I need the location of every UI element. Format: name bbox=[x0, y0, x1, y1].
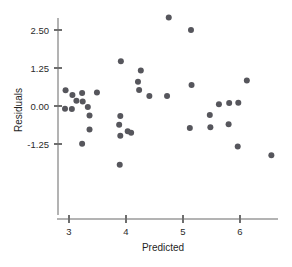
data-point bbox=[135, 79, 141, 85]
y-tick-label: -1.25 bbox=[27, 139, 49, 150]
data-point bbox=[73, 98, 79, 104]
plot-canvas: 34562.501.250.00-1.25 Predicted Residual… bbox=[0, 0, 292, 267]
data-point bbox=[94, 90, 100, 96]
data-point bbox=[164, 93, 170, 99]
data-point bbox=[235, 143, 241, 149]
data-point bbox=[85, 104, 91, 110]
data-point bbox=[136, 87, 142, 93]
scatter-plot-figure: 34562.501.250.00-1.25 Predicted Residual… bbox=[0, 0, 292, 267]
data-point bbox=[69, 106, 75, 112]
data-point bbox=[138, 67, 144, 73]
x-tick-label: 4 bbox=[123, 226, 128, 237]
data-point bbox=[87, 112, 93, 118]
data-point bbox=[187, 125, 193, 131]
x-tick-label: 6 bbox=[237, 226, 242, 237]
tick-labels-layer: 34562.501.250.00-1.25 bbox=[27, 25, 242, 238]
y-tick-label: 0.00 bbox=[31, 101, 50, 112]
data-point bbox=[116, 122, 122, 128]
data-point bbox=[63, 87, 69, 93]
data-point bbox=[216, 101, 222, 107]
data-point bbox=[128, 130, 134, 136]
data-points-layer bbox=[62, 15, 274, 168]
data-point bbox=[235, 100, 241, 106]
y-tick-label: 2.50 bbox=[31, 25, 50, 36]
x-axis-title: Predicted bbox=[142, 242, 184, 253]
y-axis-title: Residuals bbox=[13, 88, 24, 132]
data-point bbox=[166, 15, 172, 21]
axes-layer bbox=[57, 18, 278, 219]
x-tick-label: 5 bbox=[180, 226, 185, 237]
data-point bbox=[79, 141, 85, 147]
data-point bbox=[117, 113, 123, 119]
data-point bbox=[62, 106, 68, 112]
data-point bbox=[189, 82, 195, 88]
data-point bbox=[146, 93, 152, 99]
data-point bbox=[244, 77, 250, 83]
data-point bbox=[226, 100, 232, 106]
data-point bbox=[117, 162, 123, 168]
data-point bbox=[69, 92, 75, 98]
data-point bbox=[207, 112, 213, 118]
data-point bbox=[188, 27, 194, 33]
data-point bbox=[80, 98, 86, 104]
x-tick-label: 3 bbox=[66, 226, 71, 237]
y-tick-label: 1.25 bbox=[31, 63, 50, 74]
data-point bbox=[118, 58, 124, 64]
data-point bbox=[117, 133, 123, 139]
data-point bbox=[79, 90, 85, 96]
data-point bbox=[226, 121, 232, 127]
data-point bbox=[87, 126, 93, 132]
data-point bbox=[268, 152, 274, 158]
data-point bbox=[207, 124, 213, 130]
